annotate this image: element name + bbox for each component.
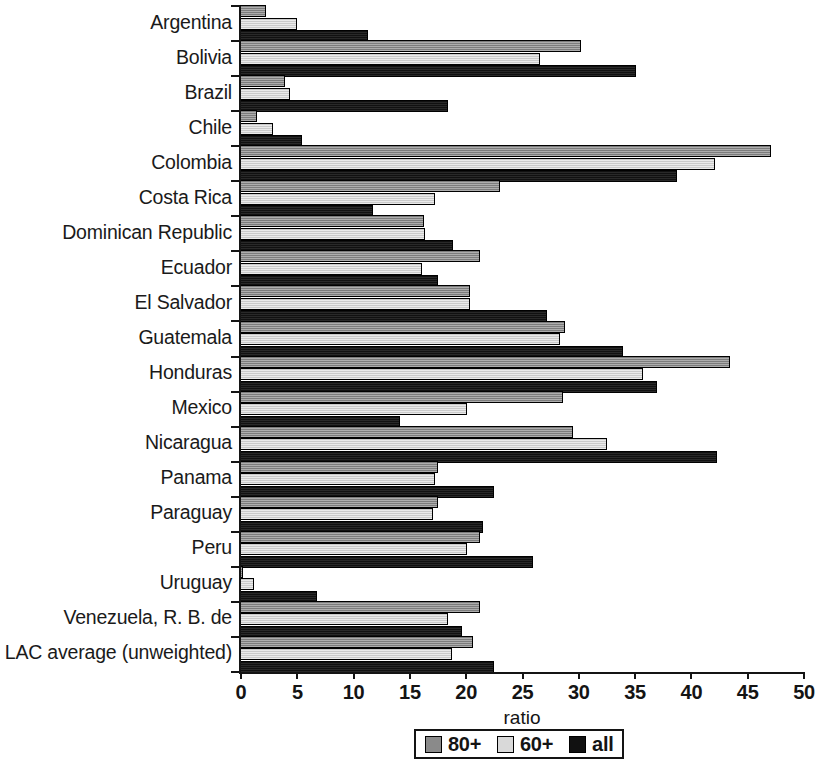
bar-brazil-80plus <box>240 75 285 87</box>
plot-area <box>240 6 803 672</box>
chart-legend: 80+ 60+ all <box>414 729 624 759</box>
x-tick-15 <box>409 672 411 679</box>
bar-nicaragua-80plus <box>240 426 573 438</box>
legend-label-80plus: 80+ <box>448 733 481 756</box>
y-tick-end <box>231 671 240 673</box>
x-axis-title: ratio <box>240 707 804 729</box>
bar-panama-80plus <box>240 461 438 473</box>
category-label: Colombia <box>4 151 232 174</box>
bar-bolivia-all <box>240 65 636 77</box>
category-label: Brazil <box>4 81 232 104</box>
bar-argentina-60plus <box>240 18 297 30</box>
y-tick-12 <box>231 426 240 428</box>
bar-venezuela-r-b-de-80plus <box>240 601 480 613</box>
category-label: Chile <box>4 116 232 139</box>
legend-item-all: all <box>569 733 613 756</box>
bar-brazil-all <box>240 100 448 112</box>
legend-label-all: all <box>592 733 613 756</box>
x-tick-label-10: 10 <box>334 681 374 704</box>
category-label: Argentina <box>4 11 232 34</box>
legend-swatch-80plus <box>425 736 442 753</box>
x-tick-label-30: 30 <box>559 681 599 704</box>
y-tick-2 <box>231 75 240 77</box>
x-tick-label-5: 5 <box>277 681 317 704</box>
y-tick-10 <box>231 356 240 358</box>
bar-el-salvador-80plus <box>240 285 470 297</box>
bar-ecuador-60plus <box>240 263 422 275</box>
category-label: Panama <box>4 466 232 489</box>
x-tick-50 <box>803 672 805 679</box>
category-label: Uruguay <box>4 571 232 594</box>
legend-swatch-60plus <box>497 736 514 753</box>
category-label: LAC average (unweighted) <box>4 641 232 664</box>
bar-chart: 05101520253035404550 ArgentinaBoliviaBra… <box>0 0 815 762</box>
x-tick-label-15: 15 <box>390 681 430 704</box>
category-label: Honduras <box>4 361 232 384</box>
x-tick-20 <box>465 672 467 679</box>
bar-honduras-80plus <box>240 356 730 368</box>
bar-dominican-republic-60plus <box>240 228 425 240</box>
bar-paraguay-60plus <box>240 508 433 520</box>
y-tick-5 <box>231 180 240 182</box>
bar-peru-60plus <box>240 543 467 555</box>
x-tick-label-45: 45 <box>728 681 768 704</box>
bar-peru-all <box>240 556 533 568</box>
bar-colombia-80plus <box>240 145 771 157</box>
x-tick-40 <box>690 672 692 679</box>
bar-chile-80plus <box>240 110 257 122</box>
x-tick-label-35: 35 <box>615 681 655 704</box>
bar-bolivia-60plus <box>240 53 540 65</box>
category-label: Paraguay <box>4 501 232 524</box>
bar-bolivia-80plus <box>240 40 581 52</box>
y-tick-16 <box>231 566 240 568</box>
category-label: Ecuador <box>4 256 232 279</box>
bar-peru-80plus <box>240 531 480 543</box>
y-tick-6 <box>231 215 240 217</box>
bar-costa-rica-60plus <box>240 193 435 205</box>
bar-guatemala-80plus <box>240 321 565 333</box>
x-tick-0 <box>240 672 242 679</box>
bar-lac-average-unweighted-80plus <box>240 636 473 648</box>
x-tick-30 <box>578 672 580 679</box>
x-tick-10 <box>353 672 355 679</box>
x-tick-label-40: 40 <box>671 681 711 704</box>
bar-lac-average-unweighted-60plus <box>240 648 452 660</box>
bar-uruguay-60plus <box>240 578 254 590</box>
category-label: Guatemala <box>4 326 232 349</box>
x-tick-label-20: 20 <box>446 681 486 704</box>
x-tick-label-50: 50 <box>784 681 815 704</box>
category-label: Costa Rica <box>4 186 232 209</box>
legend-label-60plus: 60+ <box>520 733 553 756</box>
bar-panama-60plus <box>240 473 435 485</box>
y-tick-13 <box>231 461 240 463</box>
category-label: Bolivia <box>4 46 232 69</box>
legend-swatch-all <box>569 736 586 753</box>
category-label: Mexico <box>4 396 232 419</box>
y-tick-0 <box>231 5 240 7</box>
y-tick-3 <box>231 110 240 112</box>
y-tick-11 <box>231 391 240 393</box>
legend-item-80plus: 80+ <box>425 733 481 756</box>
x-tick-5 <box>296 672 298 679</box>
bar-venezuela-r-b-de-60plus <box>240 613 448 625</box>
y-axis-line <box>239 6 241 674</box>
y-tick-18 <box>231 636 240 638</box>
category-label: El Salvador <box>4 291 232 314</box>
legend-item-60plus: 60+ <box>497 733 553 756</box>
bar-honduras-60plus <box>240 368 643 380</box>
bar-el-salvador-60plus <box>240 298 470 310</box>
bar-ecuador-80plus <box>240 250 480 262</box>
y-tick-9 <box>231 320 240 322</box>
x-tick-label-0: 0 <box>221 681 261 704</box>
bar-chile-60plus <box>240 123 273 135</box>
category-label: Venezuela, R. B. de <box>4 606 232 629</box>
y-tick-17 <box>231 601 240 603</box>
y-tick-14 <box>231 496 240 498</box>
bar-colombia-60plus <box>240 158 715 170</box>
category-label: Peru <box>4 536 232 559</box>
bar-costa-rica-80plus <box>240 180 500 192</box>
y-tick-15 <box>231 531 240 533</box>
y-tick-7 <box>231 250 240 252</box>
y-tick-1 <box>231 40 240 42</box>
x-tick-35 <box>634 672 636 679</box>
